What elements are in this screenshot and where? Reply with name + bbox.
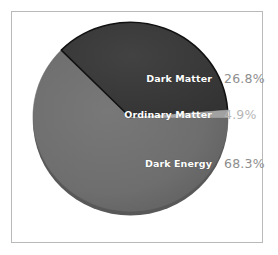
pie-chart-figure: Dark Matter 26.8% Ordinary Matter 4.9% D… (0, 0, 278, 255)
pie-svg (0, 0, 278, 255)
pie-chart-plot-area (0, 0, 278, 255)
